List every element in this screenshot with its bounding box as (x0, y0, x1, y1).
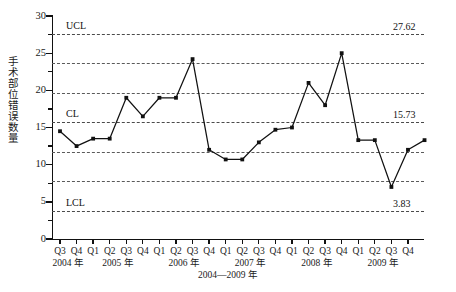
data-point-marker (390, 185, 394, 189)
data-point-marker (58, 129, 62, 133)
data-point-marker (274, 128, 278, 132)
data-point-marker (373, 138, 377, 142)
data-point-marker (224, 158, 228, 162)
data-point-marker (257, 140, 261, 144)
data-point-marker (290, 126, 294, 130)
data-point-marker (158, 96, 162, 100)
series-polyline (60, 53, 425, 187)
data-point-marker (423, 138, 427, 142)
data-point-marker (323, 103, 327, 107)
data-point-marker (207, 148, 211, 152)
data-point-marker (356, 138, 360, 142)
data-point-marker (141, 114, 145, 118)
data-point-marker (124, 96, 128, 100)
data-point-marker (174, 96, 178, 100)
x-axis-title: 2004—2009 年 (0, 270, 456, 280)
spc-control-chart: 手术部位错误数量 051015202530 UCL27.62CL15.73LCL… (0, 0, 456, 292)
data-point-marker (108, 137, 112, 141)
data-point-marker (340, 51, 344, 55)
data-point-marker (75, 144, 79, 148)
data-series-line (0, 0, 456, 292)
data-point-marker (307, 81, 311, 85)
data-point-marker (406, 148, 410, 152)
data-point-marker (191, 57, 195, 61)
data-point-marker (240, 158, 244, 162)
data-point-marker (91, 137, 95, 141)
